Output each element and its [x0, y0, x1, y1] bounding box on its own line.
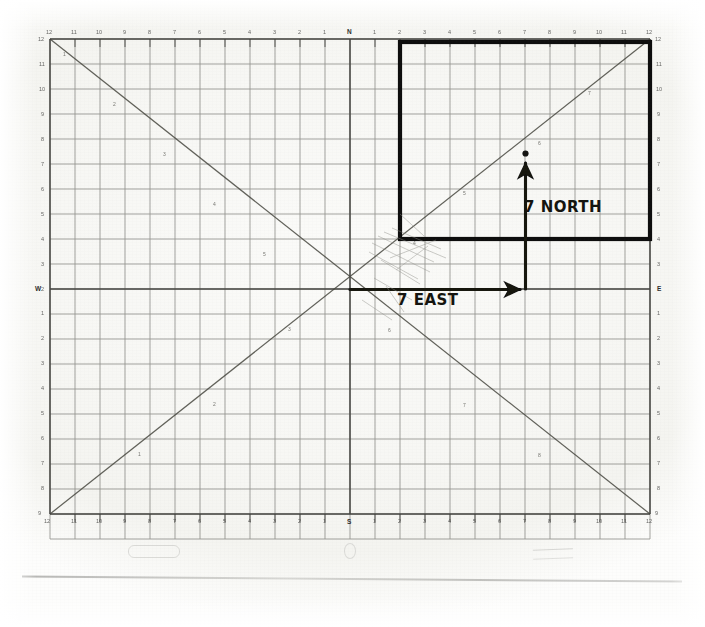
right-tick-label: 4: [657, 386, 660, 392]
left-tick-label: 6: [41, 187, 44, 193]
right-tick-label: 10: [656, 87, 662, 93]
bottom-tick-label: 1: [323, 519, 326, 525]
diagonal-tick-label: 4: [413, 241, 416, 246]
right-tick-label: 8: [657, 137, 660, 143]
diagonal-tick-label: 3: [288, 327, 291, 332]
vector-arrows: [350, 163, 526, 290]
top-tick-label: 2: [398, 30, 401, 36]
bottom-tick-label: 9: [573, 519, 576, 525]
top-tick-label: 5: [223, 30, 226, 36]
scanned-page: 12 11 10 9 8 7 6 5 4 3 2 1 N 1 2 3 4 5 6…: [0, 0, 705, 627]
diagonal-tick-label: 8: [538, 453, 541, 458]
bottom-tick-label: 4: [448, 519, 451, 525]
left-tick-label: 11: [39, 62, 45, 68]
diagonal-tick-label: 2: [113, 102, 116, 107]
right-tick-label: 5: [657, 411, 660, 417]
left-tick-label: 7: [41, 162, 44, 168]
left-tick-label: 3: [41, 262, 44, 268]
diagonal-tick-label: 2: [213, 402, 216, 407]
top-tick-label: 10: [96, 30, 102, 36]
left-tick-label: 12: [38, 37, 44, 43]
top-tick-label: 5: [473, 30, 476, 36]
top-tick-label: 7: [173, 30, 176, 36]
left-tick-label: 8: [41, 137, 44, 143]
north-annotation-label: 7 NORTH: [524, 198, 602, 216]
bottom-tick-label: 12: [44, 519, 50, 525]
left-tick-label: 8: [41, 486, 44, 492]
west-cardinal-label: W: [35, 286, 41, 293]
bottom-tick-label: 10: [96, 519, 102, 525]
left-tick-label: 6: [41, 436, 44, 442]
diagonal-tick-label: 6: [538, 141, 541, 146]
top-tick-label: 11: [621, 30, 627, 36]
left-tick-label: 5: [41, 411, 44, 417]
left-tick-label: 1: [41, 311, 44, 317]
right-tick-label: 3: [657, 361, 660, 367]
top-tick-label: 6: [498, 30, 501, 36]
top-tick-label: 8: [148, 30, 151, 36]
top-tick-label: 12: [646, 30, 652, 36]
bottom-tick-label: 5: [223, 519, 226, 525]
top-tick-label: 6: [198, 30, 201, 36]
bottom-tick-label: 11: [71, 519, 77, 525]
east-annotation-label: 7 EAST: [397, 291, 459, 309]
right-tick-label: 9: [657, 112, 660, 118]
right-tick-label: 9: [655, 511, 658, 517]
top-tick-label: 2: [298, 30, 301, 36]
bottom-tick-label: 10: [596, 519, 602, 525]
bottom-tick-label: 3: [273, 519, 276, 525]
diagonal-tick-label: 5: [263, 252, 266, 257]
diagonal-tick-label: 5: [463, 191, 466, 196]
south-cardinal-label: S: [347, 519, 351, 526]
endpoint-dot: [522, 150, 528, 156]
top-tick-label: 3: [273, 30, 276, 36]
right-tick-label: 7: [657, 162, 660, 168]
diagonal-tick-label: 1: [63, 52, 66, 57]
bottom-tick-label: 2: [398, 519, 401, 525]
top-tick-label: 8: [548, 30, 551, 36]
diagonal-tick-label: 7: [463, 403, 466, 408]
top-tick-label: 3: [423, 30, 426, 36]
top-tick-label: 7: [523, 30, 526, 36]
left-tick-label: 2: [41, 336, 44, 342]
bottom-tick-label: 3: [423, 519, 426, 525]
left-tick-label: 5: [41, 212, 44, 218]
bottom-tick-label: 8: [148, 519, 151, 525]
top-tick-label: 1: [373, 30, 376, 36]
left-tick-label: 2: [41, 287, 44, 293]
bottom-tick-label: 6: [498, 519, 501, 525]
bottom-tick-label: 12: [646, 519, 652, 525]
right-tick-label: 6: [657, 436, 660, 442]
right-tick-label: 7: [657, 461, 660, 467]
left-tick-label: 10: [39, 87, 45, 93]
right-tick-label: 5: [657, 212, 660, 218]
left-tick-label: 7: [41, 461, 44, 467]
right-tick-label: 12: [655, 37, 661, 43]
bottom-tick-label: 1: [373, 519, 376, 525]
right-tick-label: 8: [657, 486, 660, 492]
top-tick-label: 9: [573, 30, 576, 36]
left-tick-label: 3: [41, 361, 44, 367]
top-tick-label: 10: [596, 30, 602, 36]
top-tick-label: 9: [123, 30, 126, 36]
right-tick-label: 2: [657, 336, 660, 342]
north-cardinal-label: N: [347, 29, 352, 36]
left-tick-label: 4: [41, 237, 44, 243]
bottom-tick-label: 11: [621, 519, 627, 525]
diagonal-tick-label: 7: [588, 91, 591, 96]
diagonal-tick-label: 6: [388, 328, 391, 333]
left-tick-label: 9: [38, 511, 41, 517]
left-tick-label: 4: [41, 386, 44, 392]
right-tick-label: 11: [656, 62, 662, 68]
bottom-tick-label: 5: [473, 519, 476, 525]
bottom-tick-label: 7: [173, 519, 176, 525]
diagonal-tick-label: 1: [138, 452, 141, 457]
bottom-tick-label: 8: [548, 519, 551, 525]
bottom-tick-label: 9: [123, 519, 126, 525]
diagonal-tick-label: 4: [213, 202, 216, 207]
bottom-tick-label: 6: [198, 519, 201, 525]
top-tick-label: 11: [71, 30, 77, 36]
top-tick-label: 4: [448, 30, 451, 36]
right-tick-label: 4: [657, 237, 660, 243]
top-tick-label: 1: [323, 30, 326, 36]
